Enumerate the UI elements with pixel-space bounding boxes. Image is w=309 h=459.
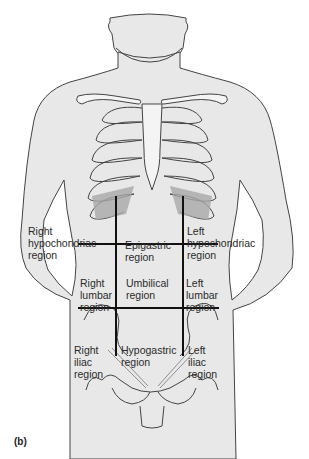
- label-hypogastric: Hypogastricregion: [121, 320, 176, 392]
- abdominal-regions-figure: Righthypochondriacregion Epigastricregio…: [0, 0, 309, 459]
- figure-caption: (b): [14, 436, 27, 447]
- label-left-iliac: Leftiliacregion: [188, 320, 217, 404]
- label-umbilical: Umbilicalregion: [126, 253, 169, 325]
- label-right-iliac: Rightiliacregion: [74, 320, 103, 404]
